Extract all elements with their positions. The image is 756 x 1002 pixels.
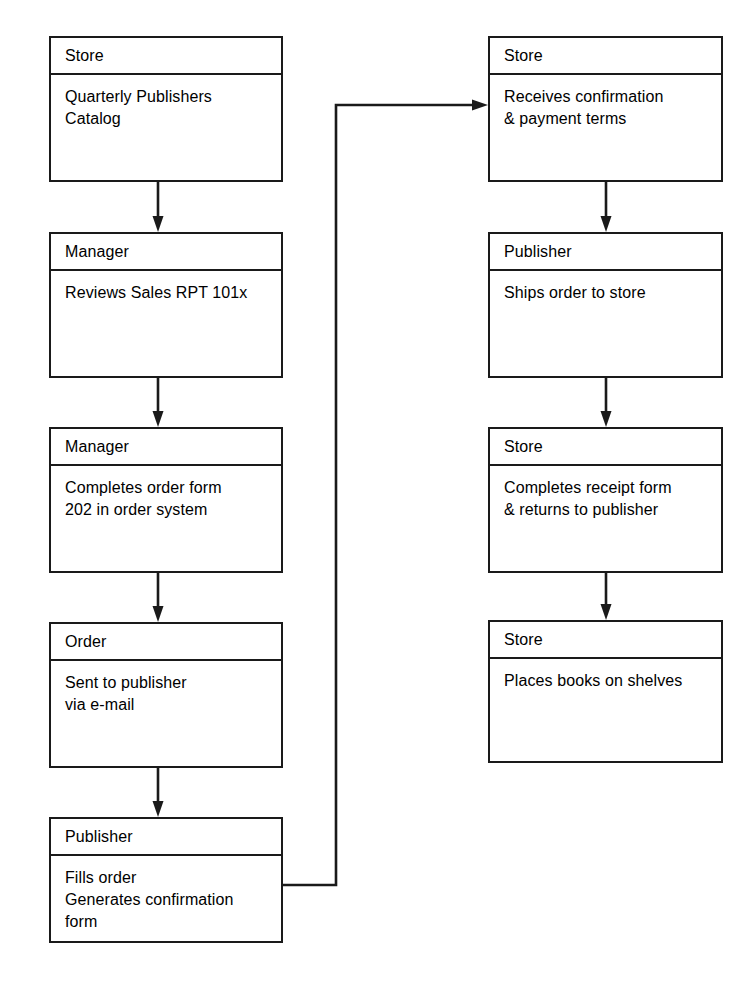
process-node-publisher-ships[interactable]: Publisher Ships order to store	[488, 232, 723, 378]
node-body-text: Places books on shelves	[490, 659, 721, 692]
process-node-manager-reviews[interactable]: Manager Reviews Sales RPT 101x	[49, 232, 283, 378]
process-node-publisher-fills[interactable]: Publisher Fills order Generates confirma…	[49, 817, 283, 943]
node-header-label: Publisher	[490, 234, 721, 271]
diagram-canvas: Store Quarterly Publishers Catalog Manag…	[0, 0, 756, 1002]
node-header-label: Manager	[51, 234, 281, 271]
node-header-label: Store	[490, 429, 721, 466]
connector-arrow-down	[150, 182, 166, 232]
node-body-text: Fills order Generates confirmation form	[51, 856, 281, 933]
node-body-text: Quarterly Publishers Catalog	[51, 75, 281, 130]
process-node-store-shelves[interactable]: Store Places books on shelves	[488, 620, 723, 763]
connector-arrow-down	[598, 378, 614, 427]
connector-arrow-down	[150, 573, 166, 622]
connector-elbow-publisher-to-store	[283, 98, 493, 893]
node-header-label: Store	[51, 38, 281, 75]
process-node-order-sent[interactable]: Order Sent to publisher via e-mail	[49, 622, 283, 768]
process-node-store-receives[interactable]: Store Receives confirmation & payment te…	[488, 36, 723, 182]
process-node-manager-order-form[interactable]: Manager Completes order form 202 in orde…	[49, 427, 283, 573]
connector-arrow-down	[150, 768, 166, 817]
connector-arrow-down	[598, 573, 614, 620]
node-header-label: Store	[490, 622, 721, 659]
connector-arrow-down	[150, 378, 166, 427]
process-node-store-receipt[interactable]: Store Completes receipt form & returns t…	[488, 427, 723, 573]
node-body-text: Receives confirmation & payment terms	[490, 75, 721, 130]
node-header-label: Order	[51, 624, 281, 661]
node-body-text: Completes order form 202 in order system	[51, 466, 281, 521]
node-body-text: Completes receipt form & returns to publ…	[490, 466, 721, 521]
connector-arrow-down	[598, 182, 614, 232]
node-header-label: Manager	[51, 429, 281, 466]
node-header-label: Publisher	[51, 819, 281, 856]
node-body-text: Reviews Sales RPT 101x	[51, 271, 281, 304]
process-node-store-catalog[interactable]: Store Quarterly Publishers Catalog	[49, 36, 283, 182]
node-header-label: Store	[490, 38, 721, 75]
node-body-text: Ships order to store	[490, 271, 721, 304]
node-body-text: Sent to publisher via e-mail	[51, 661, 281, 716]
